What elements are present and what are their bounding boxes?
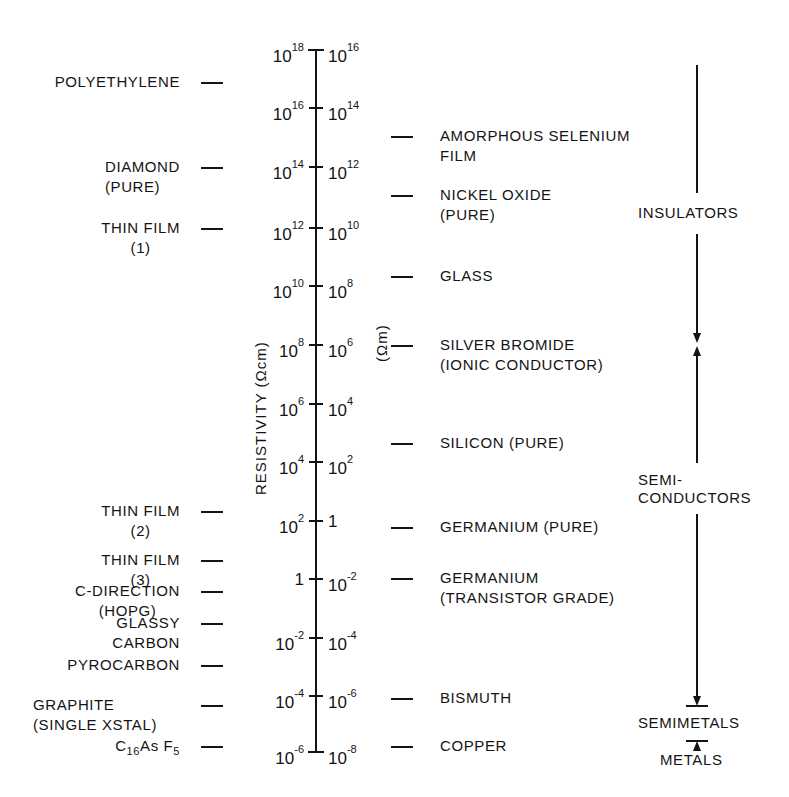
left-material-label: PYROCARBON	[67, 655, 180, 675]
tick-label-ohm-cm: 10-2	[275, 630, 304, 654]
tick-label-ohm-m: 10-8	[328, 744, 357, 768]
right-material-label: AMORPHOUS SELENIUMFILM	[440, 126, 630, 166]
material-marker	[201, 82, 223, 84]
material-marker	[391, 746, 413, 748]
right-material-label: BISMUTH	[440, 688, 512, 708]
tick-label-ohm-m: 10-4	[328, 630, 357, 654]
material-marker	[391, 195, 413, 197]
material-marker	[201, 705, 223, 707]
tick-label-ohm-cm: 104	[279, 454, 304, 478]
left-material-label: GRAPHITE(SINGLE XSTAL)	[33, 695, 157, 735]
tick-label-ohm-cm: 1	[295, 571, 304, 589]
tick-label-ohm-cm: 1018	[273, 42, 304, 66]
right-material-label: COPPER	[440, 736, 507, 756]
tick-label-ohm-m: 1016	[328, 42, 359, 66]
tick-label-ohm-cm: 1012	[273, 220, 304, 244]
material-marker	[201, 167, 223, 169]
class-label-insulators: INSULATORS	[638, 203, 738, 223]
axis-title-ohm-m: (Ωm)	[373, 324, 390, 362]
tick-label-ohm-cm: 1014	[273, 159, 304, 183]
left-material-label: GLASSYCARBON	[112, 613, 180, 653]
material-marker	[201, 665, 223, 667]
left-material-label: C16As F5	[115, 736, 180, 761]
tick-label-ohm-cm: 1016	[273, 100, 304, 124]
tick-label-ohm-cm: 10-4	[275, 688, 304, 712]
right-material-label: GERMANIUM (PURE)	[440, 517, 599, 537]
class-label-semiconductors-2: CONDUCTORS	[638, 488, 751, 508]
left-material-label: THIN FILM(1)	[101, 218, 180, 258]
material-marker	[391, 578, 413, 580]
left-material-label: DIAMOND(PURE)	[105, 157, 180, 197]
classification-bracket	[686, 65, 708, 751]
tick-label-ohm-m: 1010	[328, 220, 359, 244]
right-material-label: SILVER BROMIDE(IONIC CONDUCTOR)	[440, 335, 603, 375]
class-label-metals: METALS	[660, 750, 723, 770]
diagram-lines	[0, 0, 789, 797]
material-marker	[201, 228, 223, 230]
material-marker	[201, 623, 223, 625]
tick-label-ohm-cm: 10-6	[275, 744, 304, 768]
tick-label-ohm-cm: 108	[279, 337, 304, 361]
tick-label-ohm-m: 102	[328, 454, 353, 478]
tick-label-ohm-m: 10-6	[328, 688, 357, 712]
class-label-semimetals: SEMIMETALS	[638, 713, 740, 733]
right-material-label: NICKEL OXIDE(PURE)	[440, 185, 552, 225]
tick-label-ohm-m: 1012	[328, 159, 359, 183]
class-label-semiconductors-1: SEMI-	[638, 470, 683, 490]
tick-label-ohm-m: 1014	[328, 100, 359, 124]
material-marker	[201, 746, 223, 748]
right-material-label: SILICON (PURE)	[440, 433, 564, 453]
tick-label-ohm-m: 106	[328, 337, 353, 361]
tick-label-ohm-cm: 102	[279, 513, 304, 537]
right-material-label: GERMANIUM(TRANSISTOR GRADE)	[440, 568, 615, 608]
material-marker	[201, 511, 223, 513]
tick-label-ohm-m: 10-2	[328, 571, 357, 595]
material-marker	[201, 591, 223, 593]
tick-label-ohm-cm: 1010	[273, 278, 304, 302]
tick-label-ohm-cm: 106	[279, 396, 304, 420]
material-marker	[201, 560, 223, 562]
material-marker	[391, 276, 413, 278]
axis-title-ohm-cm: RESISTIVITY (Ωcm)	[252, 341, 269, 495]
material-marker	[391, 136, 413, 138]
tick-label-ohm-m: 104	[328, 396, 353, 420]
right-material-label: GLASS	[440, 266, 493, 286]
left-material-label: POLYETHYLENE	[55, 72, 180, 92]
material-marker	[391, 443, 413, 445]
tick-label-ohm-m: 108	[328, 278, 353, 302]
material-marker	[391, 698, 413, 700]
tick-label-ohm-m: 1	[328, 513, 337, 531]
left-material-label: THIN FILM(2)	[101, 501, 180, 541]
material-marker	[391, 345, 413, 347]
material-marker	[391, 527, 413, 529]
